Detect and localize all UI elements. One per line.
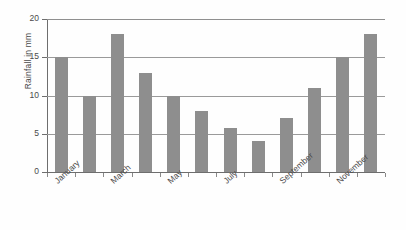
- x-tick-mark-4: [160, 173, 161, 177]
- bar: [167, 96, 180, 173]
- x-tick-mark-0: [47, 173, 48, 177]
- bar: [111, 34, 124, 172]
- bar: [280, 118, 293, 172]
- bar-chart: Rainfall in mm 05101520 JanuaryMarchMayJ…: [0, 0, 406, 230]
- y-tick-label-10: 10: [22, 91, 39, 100]
- x-tick-mark-2: [103, 173, 104, 177]
- x-tick-mark-7: [244, 173, 245, 177]
- gridline-5: [47, 134, 385, 135]
- bar: [224, 128, 237, 172]
- gridline-15: [47, 57, 385, 58]
- y-tick-label-0: 0: [22, 167, 39, 176]
- x-tick-mark-3: [132, 173, 133, 177]
- bar: [336, 57, 349, 172]
- bar: [55, 57, 68, 172]
- x-tick-mark-8: [272, 173, 273, 177]
- gridline-10: [47, 96, 385, 97]
- plot-area: [47, 19, 385, 172]
- y-tick-label-20: 20: [22, 14, 39, 23]
- x-tick-mark-5: [188, 173, 189, 177]
- bar: [252, 141, 265, 172]
- bar: [364, 34, 377, 172]
- x-tick-mark-10: [329, 173, 330, 177]
- gridline-20: [47, 19, 385, 20]
- x-tick-mark-11: [357, 173, 358, 177]
- bar: [139, 73, 152, 172]
- bar: [195, 111, 208, 172]
- bar: [83, 96, 96, 173]
- y-tick-label-15: 15: [22, 52, 39, 61]
- x-tick-mark-1: [75, 173, 76, 177]
- x-tick-mark-9: [301, 173, 302, 177]
- x-tick-mark-6: [216, 173, 217, 177]
- x-tick-mark-12: [385, 173, 386, 177]
- y-tick-label-5: 5: [22, 129, 39, 138]
